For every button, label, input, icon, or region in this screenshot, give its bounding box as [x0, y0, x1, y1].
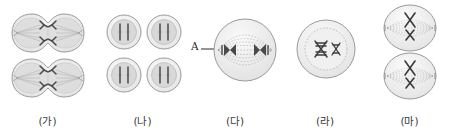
- annotation-label-A: A: [191, 40, 199, 52]
- cell-na-2: [145, 13, 183, 51]
- panel-caption-ma: (마): [370, 113, 449, 128]
- panel-ma: (마): [370, 0, 449, 134]
- panel-na: (나): [95, 0, 190, 134]
- cell-ma-top: [383, 4, 437, 52]
- cell-ma-bottom: [383, 52, 437, 100]
- cell-membrane: [384, 53, 436, 99]
- panel-caption-da: (다): [190, 113, 280, 128]
- cytoplasm: [112, 63, 137, 88]
- nuclear-envelope: [305, 28, 347, 70]
- panel-caption-ra: (라): [280, 113, 370, 128]
- cytoplasm: [152, 63, 177, 88]
- cell-na-3: [105, 56, 143, 94]
- panel-da: A: [190, 0, 280, 134]
- cell-ra: [295, 18, 357, 80]
- panel-caption-ga: (가): [0, 113, 95, 128]
- panel-ga: (가): [0, 0, 95, 134]
- cell-ga-top: [10, 12, 86, 54]
- cell-membrane: [384, 5, 436, 51]
- cytoplasm: [112, 20, 137, 45]
- cytoplasm: [152, 20, 177, 45]
- cell-division-figure: (가): [0, 0, 449, 134]
- panel-caption-na: (나): [95, 113, 190, 128]
- cell-na-1: [105, 13, 143, 51]
- cell-na-4: [145, 56, 183, 94]
- panel-ra: (라): [280, 0, 370, 134]
- cell-ga-bottom: [10, 57, 86, 99]
- cell-da: [212, 17, 278, 83]
